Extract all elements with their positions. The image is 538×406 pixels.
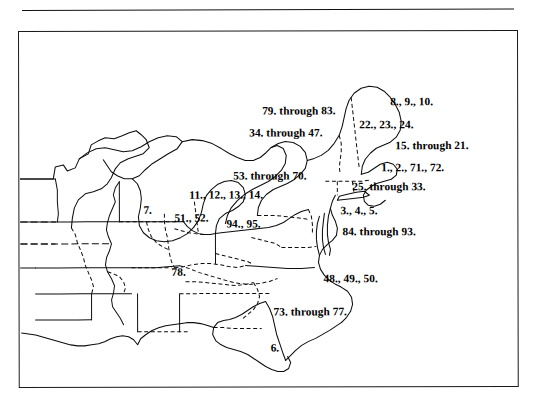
- map-label-22-23-24: 22., 23., 24.: [359, 118, 413, 130]
- figure-page: 8., 9., 10. 79. through 83. 22., 23., 24…: [0, 0, 538, 406]
- map-label-53-through-70: 53. through 70.: [233, 169, 306, 181]
- map-label-34-through-47: 34. through 47.: [249, 126, 322, 138]
- map-label-94-95: 94., 95.: [226, 217, 260, 229]
- state-borders-solid: [20, 178, 314, 332]
- map-label-11-12-13-14: 11., 12., 13., 14.: [189, 188, 263, 200]
- map-label-78: 78.: [171, 266, 185, 278]
- map-label-79-through-83: 79. through 83.: [262, 104, 335, 116]
- map-label-51-52: 51., 52.: [174, 212, 208, 224]
- map-label-84-through-93: 84. through 93.: [342, 225, 415, 237]
- us-eastern-outline-map: [19, 31, 518, 387]
- map-label-25-through-33: 25. through 33.: [352, 180, 425, 192]
- map-canvas: [19, 31, 518, 387]
- top-horizontal-rule: [22, 8, 514, 11]
- map-label-8-9-10: 8., 9., 10.: [390, 95, 433, 107]
- map-label-7: 7.: [143, 204, 152, 216]
- map-label-3-4-5: 3., 4., 5.: [340, 204, 377, 216]
- map-frame: 8., 9., 10. 79. through 83. 22., 23., 24…: [18, 30, 519, 388]
- map-label-15-through-21: 15. through 21.: [395, 139, 468, 151]
- map-label-6: 6.: [271, 341, 280, 353]
- map-label-73-through-77: 73. through 77.: [274, 305, 347, 317]
- map-label-48-49-50: 48., 49., 50.: [324, 272, 378, 284]
- map-label-1-2-71-72: 1., 2., 71., 72.: [381, 161, 444, 173]
